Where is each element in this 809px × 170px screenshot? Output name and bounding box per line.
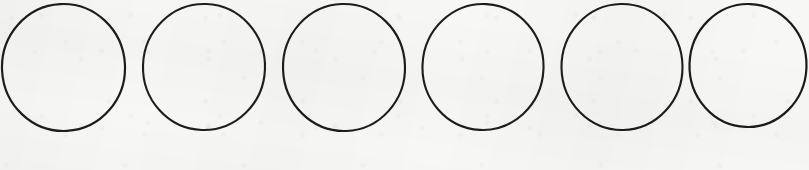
circles-layer [0,0,809,170]
circle-group-2 [141,2,267,132]
circle-outline-1 [0,1,128,134]
circle-outline-4 [419,1,546,133]
circle-group-6 [687,2,808,129]
circle-group-5 [560,3,683,131]
circle-group-4 [419,1,546,133]
circles-figure [0,0,809,170]
circle-outline-5 [560,3,683,131]
circle-outline-3 [281,2,407,133]
circle-group-1 [0,1,128,134]
circle-outline-2 [141,2,267,132]
circle-group-3 [281,2,407,133]
circle-outline-6 [687,2,808,129]
scanned-page [0,0,809,170]
